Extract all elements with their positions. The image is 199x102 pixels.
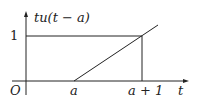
ramp-line — [74, 25, 158, 81]
y-tick-label: 1 — [10, 28, 18, 43]
origin-label: O — [10, 83, 21, 98]
x-tick-a: a — [70, 83, 78, 98]
x-axis-arrow-icon — [183, 79, 189, 83]
y-axis-label: tu(t − a) — [34, 10, 90, 25]
x-axis-label: t — [178, 83, 184, 98]
graph: tu(t − a) 1 O a a + 1 t — [0, 0, 199, 102]
y-axis-arrow-icon — [24, 11, 28, 17]
x-tick-a-plus-1: a + 1 — [128, 83, 163, 98]
